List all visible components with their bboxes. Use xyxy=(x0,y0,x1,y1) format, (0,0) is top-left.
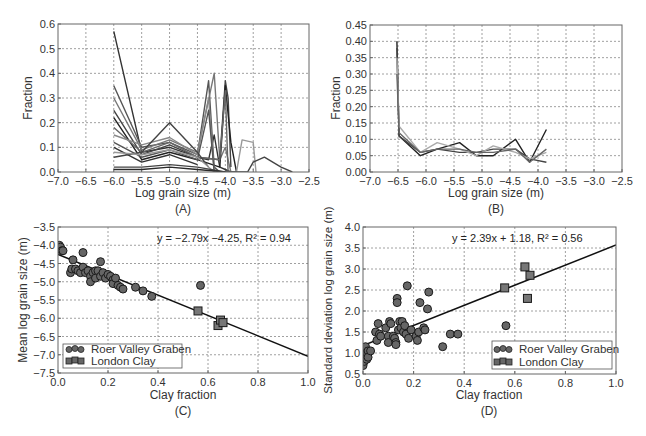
panel-b-label: (B) xyxy=(488,202,504,216)
y-tick-label: 0.0 xyxy=(40,166,55,178)
panel-a-ylabel: Fraction xyxy=(21,76,35,119)
panel-c-legend: Roer Valley Graben London Clay xyxy=(63,343,191,368)
x-tick-label: −6.5 xyxy=(387,175,409,187)
y-tick-label: 0.1 xyxy=(40,141,55,153)
y-tick-label: 1.5 xyxy=(345,326,360,338)
x-tick-label: −3.5 xyxy=(555,175,577,187)
data-point xyxy=(197,281,205,289)
panel-c-label: (C) xyxy=(175,404,192,418)
y-tick-label: 0.45 xyxy=(346,19,367,31)
x-tick-label: 0.2 xyxy=(100,376,115,388)
y-tick-label: 0.5 xyxy=(40,43,55,55)
panel-d-equation: y = 2.39x + 1.18, R² = 0.56 xyxy=(452,232,583,244)
data-point xyxy=(112,274,120,282)
panel-d-ylabel: Standard deviation log grain size (m) xyxy=(322,206,334,393)
x-tick-label: 0.2 xyxy=(406,377,421,389)
x-tick-label: −3.5 xyxy=(242,175,264,187)
y-tick-label: −7.0 xyxy=(33,349,55,361)
data-point xyxy=(523,294,531,302)
panel-b-xlabel: Log grain size (m) xyxy=(448,186,544,200)
data-point xyxy=(194,307,202,315)
x-tick-label: −3.0 xyxy=(270,175,292,187)
y-tick-label: −4.0 xyxy=(33,239,55,251)
y-tick-label: 3.5 xyxy=(345,242,360,254)
panel-a-label: (A) xyxy=(175,202,191,216)
y-tick-label: −6.5 xyxy=(33,331,55,343)
data-point xyxy=(69,256,77,264)
series-line xyxy=(397,74,547,162)
panel-a-chart: −7.0−6.5−6.0−5.5−5.0−4.5−4.0−3.5−3.0−2.5… xyxy=(40,18,320,187)
panel-d-label: (D) xyxy=(481,404,498,418)
series-line xyxy=(397,48,547,162)
y-tick-label: 0.4 xyxy=(40,67,55,79)
data-point xyxy=(439,343,447,351)
legend-roer-valley: Roer Valley Graben xyxy=(519,343,619,355)
x-tick-label: 0.4 xyxy=(150,376,165,388)
panel-a-xlabel: Log grain size (m) xyxy=(135,186,231,200)
figure: −7.0−6.5−6.0−5.5−5.0−4.5−4.0−3.5−3.0−2.5… xyxy=(0,0,646,436)
y-tick-label: 0.05 xyxy=(346,150,367,162)
y-tick-label: 0.3 xyxy=(40,92,55,104)
data-point xyxy=(416,299,424,307)
y-tick-label: 2.0 xyxy=(345,305,360,317)
y-tick-label: 1.0 xyxy=(345,347,360,359)
panel-c-xlabel: Clay fraction xyxy=(150,388,217,402)
y-tick-label: 0.6 xyxy=(40,18,55,30)
x-tick-label: −6.0 xyxy=(415,175,437,187)
y-tick-label: 3.0 xyxy=(345,263,360,275)
series-line xyxy=(397,58,547,159)
y-tick-label: −5.0 xyxy=(33,276,55,288)
y-tick-label: 0.15 xyxy=(346,117,367,129)
panel-d-legend: Roer Valley Graben London Clay xyxy=(492,341,619,369)
series-line xyxy=(397,41,547,162)
square-marker-icon xyxy=(66,357,84,364)
y-tick-label: 0.25 xyxy=(346,84,367,96)
data-point xyxy=(392,341,400,349)
panel-b-ylabel: Fraction xyxy=(329,76,343,119)
y-tick-label: 0.00 xyxy=(346,166,367,178)
data-point xyxy=(148,292,156,300)
x-tick-label: 0.8 xyxy=(558,377,573,389)
x-tick-label: −2.5 xyxy=(611,175,633,187)
data-point xyxy=(521,263,529,271)
y-tick-label: 0.40 xyxy=(346,35,367,47)
circle-marker-icon xyxy=(494,346,512,353)
panel-d-xlabel: Clay fraction xyxy=(456,388,523,402)
x-tick-label: 0.6 xyxy=(200,376,215,388)
data-point xyxy=(526,271,534,279)
x-tick-label: −6.5 xyxy=(75,175,97,187)
y-tick-label: 0.10 xyxy=(346,133,367,145)
y-tick-label: 4.0 xyxy=(345,221,360,233)
y-tick-label: 0.30 xyxy=(346,68,367,80)
data-point xyxy=(405,334,413,342)
data-point xyxy=(79,249,87,257)
x-tick-label: −6.0 xyxy=(103,175,125,187)
data-point xyxy=(374,320,382,328)
data-point xyxy=(421,326,429,334)
plot-frame xyxy=(370,25,622,172)
data-point xyxy=(446,330,454,338)
y-tick-label: −6.0 xyxy=(33,312,55,324)
data-point xyxy=(413,336,421,344)
panel-c-equation: y = −2.79x −4.25, R² = 0.94 xyxy=(157,232,291,244)
x-tick-label: −2.5 xyxy=(298,175,320,187)
x-tick-label: 1.0 xyxy=(608,377,623,389)
data-point xyxy=(119,285,127,293)
data-point xyxy=(132,283,140,291)
data-point xyxy=(377,332,385,340)
circle-marker-icon xyxy=(66,346,84,353)
data-point xyxy=(59,247,67,255)
panel-c-ylabel: Mean log grain size (m) xyxy=(16,237,30,362)
y-tick-label: −3.5 xyxy=(33,221,55,233)
data-point xyxy=(425,288,433,296)
data-point xyxy=(502,322,510,330)
y-tick-label: 0.35 xyxy=(346,52,367,64)
y-tick-label: 0.2 xyxy=(40,117,55,129)
y-tick-label: 0.5 xyxy=(345,368,360,380)
legend-roer-valley: Roer Valley Graben xyxy=(91,343,191,355)
y-tick-label: −4.5 xyxy=(33,258,55,270)
square-marker-icon xyxy=(494,358,512,365)
panel-b-chart: −7.0−6.5−6.0−5.5−5.0−4.5−4.0−3.5−3.0−2.5… xyxy=(346,19,633,187)
x-tick-label: 0.8 xyxy=(250,376,265,388)
data-point xyxy=(501,284,509,292)
